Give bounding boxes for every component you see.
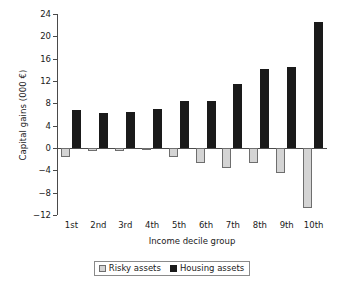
x-tick-label: 10th: [300, 219, 327, 231]
y-tick-label: −4: [38, 165, 51, 175]
bar-housing-assets-6th: [207, 101, 216, 148]
y-tick-label: 8: [46, 98, 51, 108]
y-tick-label: −12: [33, 210, 51, 220]
x-tick-label: 1st: [58, 219, 85, 231]
bar-risky-assets-8th: [249, 148, 258, 163]
bar-housing-assets-10th: [314, 22, 323, 148]
y-tick-label: 12: [40, 76, 51, 86]
x-tick-label: 8th: [246, 219, 273, 231]
bar-housing-assets-8th: [260, 69, 269, 148]
y-tick-label: −8: [38, 188, 51, 198]
bar-group: [166, 14, 193, 215]
x-tick-label: 2nd: [85, 219, 112, 231]
x-tick-label: 7th: [219, 219, 246, 231]
y-tick-mark: [53, 193, 57, 194]
y-tick-mark: [53, 36, 57, 37]
y-tick-mark: [53, 14, 57, 15]
y-tick-label: 24: [40, 9, 51, 19]
bar-risky-assets-4th: [142, 148, 151, 150]
x-tick-label: 3rd: [112, 219, 139, 231]
capital-gains-bar-chart: Capital gains (000 €) 24201612840−4−8−12…: [0, 0, 344, 286]
bar-risky-assets-1st: [61, 148, 70, 157]
legend-label-risky: Risky assets: [109, 264, 161, 273]
bar-housing-assets-5th: [180, 101, 189, 148]
legend-item-housing-assets: Housing assets: [170, 264, 244, 273]
legend-box: Risky assets Housing assets: [94, 261, 250, 276]
y-tick-mark: [53, 81, 57, 82]
y-tick-mark: [53, 215, 57, 216]
y-tick-mark: [53, 59, 57, 60]
bar-risky-assets-5th: [169, 148, 178, 157]
x-tick-label: 6th: [193, 219, 220, 231]
plot-area: 24201612840−4−8−12: [57, 14, 327, 215]
y-tick-mark: [53, 126, 57, 127]
bar-housing-assets-9th: [287, 67, 296, 148]
bar-housing-assets-3rd: [126, 112, 135, 148]
bar-group: [58, 14, 85, 215]
bar-housing-assets-7th: [233, 84, 242, 148]
bar-risky-assets-9th: [276, 148, 285, 173]
y-tick-mark: [53, 170, 57, 171]
bar-group: [273, 14, 300, 215]
bar-groups: [58, 14, 327, 215]
bar-group: [246, 14, 273, 215]
x-tick-label: 5th: [166, 219, 193, 231]
bar-group: [219, 14, 246, 215]
bar-housing-assets-1st: [72, 110, 81, 148]
bar-group: [300, 14, 327, 215]
bar-housing-assets-2nd: [99, 113, 108, 148]
bar-risky-assets-3rd: [115, 148, 124, 151]
y-tick-label: 16: [40, 54, 51, 64]
bar-risky-assets-10th: [303, 148, 312, 208]
x-tick-label: 9th: [273, 219, 300, 231]
bar-group: [112, 14, 139, 215]
legend-item-risky-assets: Risky assets: [99, 264, 161, 273]
x-tick-label: 4th: [139, 219, 166, 231]
y-tick-label: 4: [46, 121, 51, 131]
legend-swatch-icon-housing: [170, 265, 177, 272]
bar-group: [139, 14, 166, 215]
bar-group: [85, 14, 112, 215]
bar-risky-assets-7th: [222, 148, 231, 168]
bar-risky-assets-2nd: [88, 148, 97, 151]
y-tick-mark: [53, 103, 57, 104]
x-axis-title: Income decile group: [57, 236, 327, 246]
y-tick-mark: [53, 148, 57, 149]
y-axis-title: Capital gains (000 €): [18, 40, 28, 190]
legend-swatch-icon-risky: [99, 265, 106, 272]
x-axis-tick-labels: 1st2nd3rd4th5th6th7th8th9th10th: [58, 219, 327, 231]
y-tick-label: 20: [40, 31, 51, 41]
bar-group: [193, 14, 220, 215]
y-tick-label: 0: [46, 143, 51, 153]
chart-legend: Risky assets Housing assets: [0, 261, 344, 276]
bar-risky-assets-6th: [196, 148, 205, 163]
bar-housing-assets-4th: [153, 109, 162, 148]
legend-label-housing: Housing assets: [180, 264, 244, 273]
